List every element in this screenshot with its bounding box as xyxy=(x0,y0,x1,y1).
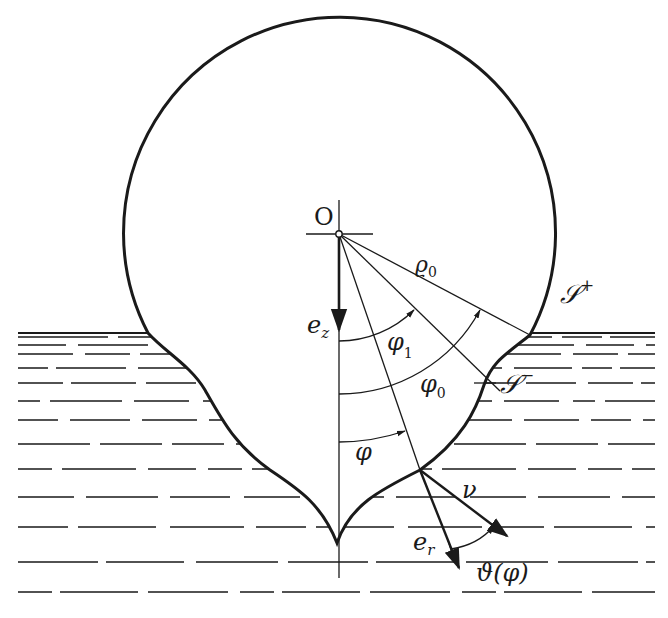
label-ez: ez xyxy=(307,311,329,342)
label-rho0: ϱ0 xyxy=(415,252,437,280)
label-nu: ν xyxy=(462,476,477,504)
angle-arc-theta xyxy=(451,526,494,549)
drop-diagram: O ϱ0 𝒮+ 𝒮− ez φ1 φ0 φ ν er ϑ(φ) xyxy=(0,0,668,618)
label-s-minus: 𝒮− xyxy=(500,365,534,399)
label-phi0: φ0 xyxy=(420,370,446,401)
label-s-plus: 𝒮+ xyxy=(560,275,594,309)
origin-point xyxy=(336,231,342,237)
label-phi1: φ1 xyxy=(387,328,413,361)
liquid-region xyxy=(18,333,655,592)
ray-rho0 xyxy=(339,234,530,335)
label-er: er xyxy=(413,528,435,559)
label-origin: O xyxy=(314,203,334,231)
angle-arc-phi xyxy=(339,431,405,442)
label-phi: φ xyxy=(355,438,372,466)
label-theta: ϑ(φ) xyxy=(476,559,529,587)
